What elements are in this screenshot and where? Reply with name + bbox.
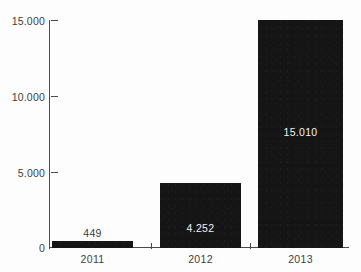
y-axis-tick-label: 5.000	[1, 167, 45, 179]
plot-area: 449 4.252 15.010	[50, 20, 348, 248]
y-axis-label-group: 15.000	[0, 15, 45, 27]
bar-2012: 4.252	[160, 183, 241, 248]
bar-2011	[52, 241, 133, 248]
y-axis-tick-label: 10.000	[1, 91, 45, 103]
x-axis-category-label-2013: 2013	[258, 253, 343, 265]
y-axis-label-group: 0	[0, 242, 45, 254]
bar-value-label-2012: 4.252	[160, 222, 241, 234]
y-axis-tick-label: 15.000	[1, 15, 45, 27]
x-axis-category-label-2011: 2011	[52, 253, 133, 265]
bar-chart: 15.000 10.000 5.000 0 449 4.252 15.010 2…	[0, 0, 361, 272]
bar-value-label-2011: 449	[52, 227, 133, 239]
y-axis-label-group: 5.000	[0, 167, 45, 179]
bar-2013: 15.010	[258, 20, 343, 248]
y-axis-label-group: 10.000	[0, 91, 45, 103]
y-axis-tick-label: 0	[1, 242, 45, 254]
bar-value-label-2013: 15.010	[258, 126, 343, 138]
x-axis-category-label-2012: 2012	[160, 253, 241, 265]
